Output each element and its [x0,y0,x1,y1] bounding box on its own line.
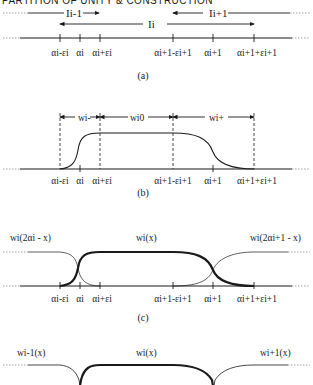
panel-d: wi-1(x) wi(x) wi+1(x) [3,348,310,385]
interval-prev-label: Ii-1 [66,7,82,19]
tick-label-alpha-i-plus-eps: αi+εi [92,48,112,58]
partition-of-unity-figure: PARTITION OF UNITY & CONSTRUCTION Ii-1 I… [0,0,313,385]
tick-label-alpha-i-minus-eps: αi-εi [51,176,69,186]
next-weight-curve [214,365,288,385]
tick-label-alpha-i: αi [76,294,84,304]
panel-a: Ii-1 Ii+1 Ii αi-εi αi αi+εi αi+1-εi+1 αi… [3,7,310,82]
left-reflection-curve [28,252,100,286]
center-weight-label: wi(x) [136,348,157,359]
prev-weight-label: wi-1(x) [17,348,46,359]
caption-b: (b) [137,187,149,199]
prev-weight-curve [28,365,80,385]
main-weight-curve [60,252,254,286]
right-reflection-label: wi(2αi+1 - x) [250,233,301,244]
left-reflection-label: wi(2αi - x) [10,233,51,244]
interval-current-label: Ii [148,18,155,30]
tick-label-alpha-i: αi [76,176,84,186]
tick-label-alpha-next: αi+1 [204,294,222,304]
bump-function-curve [60,133,254,169]
tick-label-alpha-next-plus-eps: αi+1+εi+1 [237,48,277,58]
tick-label-alpha-next-minus-eps: αi+1-εi+1 [154,48,192,58]
w-minus-label: wi- [78,113,91,123]
panel-c: wi(2αi - x) wi(x) wi(2αi+1 - x) αi-εi αi… [3,233,310,324]
tick-label-alpha-i-plus-eps: αi+εi [92,176,112,186]
tick-label-alpha-i-plus-eps: αi+εi [92,294,112,304]
tick-label-alpha-next-plus-eps: αi+1+εi+1 [237,294,277,304]
tick-label-alpha-next-plus-eps: αi+1+εi+1 [237,176,277,186]
tick-label-alpha-i-minus-eps: αi-εi [51,48,69,58]
tick-label-alpha-next-minus-eps: αi+1-εi+1 [154,294,192,304]
tick-label-alpha-i-minus-eps: αi-εi [51,294,69,304]
center-weight-curve [80,365,213,385]
caption-a: (a) [137,70,148,82]
w-zero-label: wi0 [130,113,145,123]
tick-label-alpha-i: αi [76,48,84,58]
right-reflection-curve [173,252,288,286]
caption-c: (c) [137,312,148,324]
tick-label-alpha-next-minus-eps: αi+1-εi+1 [154,176,192,186]
panel-b: wi- wi0 wi+ αi-εi αi αi+εi αi+1-εi+1 αi+… [3,113,310,199]
center-function-label: wi(x) [136,233,157,244]
tick-label-alpha-next: αi+1 [204,48,222,58]
interval-next-label: Ii+1 [209,7,227,19]
next-weight-label: wi+1(x) [260,348,291,359]
w-plus-label: wi+ [209,113,224,123]
tick-label-alpha-next: αi+1 [204,176,222,186]
section-header: PARTITION OF UNITY & CONSTRUCTION [2,0,213,6]
